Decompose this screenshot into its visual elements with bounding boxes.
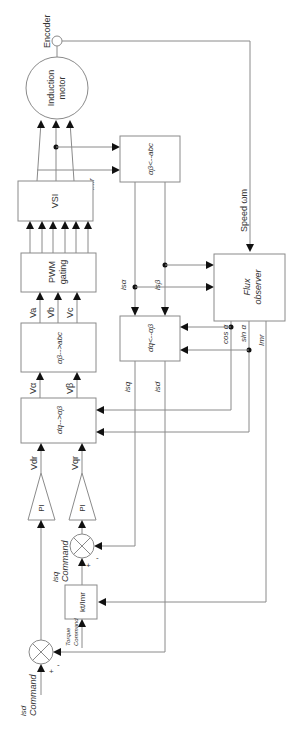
v-beta-label: Vβ: [65, 383, 75, 394]
torque-cmd-label-2: Command: [73, 618, 79, 646]
pwm-label-1: PWM: [47, 261, 57, 283]
pi-d-label: PI: [37, 504, 46, 512]
alphabeta-from-abc-label: αβ<--abc: [146, 143, 155, 175]
imr-label: Imr: [257, 334, 266, 346]
vqr-label: Vqr: [70, 456, 80, 470]
speed-label: Speed ωm: [239, 189, 249, 232]
vsi-label: VSI: [50, 194, 60, 209]
v-alpha-label: Vα: [28, 383, 38, 394]
isq-cmd-label-2: Command: [60, 539, 70, 582]
pi-controller-q: [69, 473, 96, 520]
d-minus-sign: -: [57, 660, 60, 669]
pi-q-label: PI: [78, 504, 87, 512]
vb-label: Vb: [46, 307, 56, 318]
isd-cmd-label-2: Command: [28, 673, 38, 716]
motor-label-1: Induction: [46, 70, 56, 107]
sin-label: sin α: [239, 325, 248, 342]
q-plus-sign: +: [86, 561, 91, 570]
pi-controller-d: [28, 473, 55, 520]
flux-label-1: Flux: [242, 278, 252, 296]
q-minus-sign: -: [96, 553, 99, 562]
torque-cmd-label-1: Torque: [65, 627, 71, 646]
dq-from-alphabeta-label: dq<--αβ: [146, 324, 155, 352]
isd-label: isd: [153, 381, 162, 392]
isb-label: isβ: [153, 279, 162, 290]
encoder-label: Encoder: [42, 14, 52, 48]
motor-label-2: motor: [57, 76, 67, 99]
gain-label: kt/Imr: [78, 592, 87, 612]
vdr-label: Vdr: [29, 456, 39, 470]
isq-cmd-label-1: isq: [51, 571, 60, 582]
va-label: Va: [28, 308, 38, 318]
block-diagram: Encoder Induction motor Speed ωm Imr αβ<…: [0, 0, 290, 730]
d-plus-sign: +: [49, 667, 54, 676]
isa-label: isα: [119, 279, 128, 290]
pwm-label-2: gating: [58, 260, 68, 285]
isd-cmd-label-1: isd: [19, 705, 28, 716]
encoder-icon: [52, 36, 62, 46]
cos-label: cos α: [221, 324, 230, 344]
alphabeta-to-abc-label: αβ-->abc: [55, 332, 64, 364]
isq-label: isq: [123, 381, 132, 392]
flux-label-2: observer: [253, 268, 263, 304]
vc-label: Vc: [65, 307, 75, 318]
dq-to-alphabeta-label: dq-->αβ: [55, 406, 64, 434]
